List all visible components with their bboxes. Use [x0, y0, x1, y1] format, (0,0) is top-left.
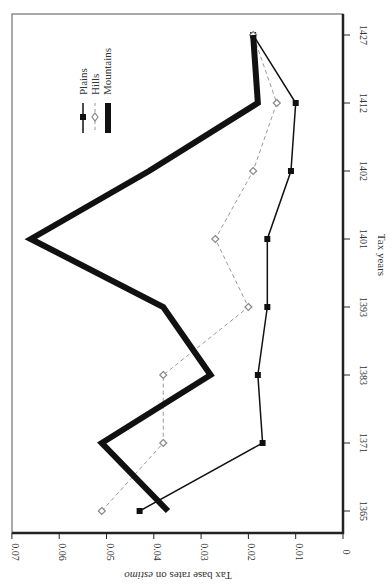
hills-diamond-marker-icon: [245, 304, 252, 311]
legend-label-plains: Plains: [77, 68, 89, 95]
plains-square-marker-icon: [255, 372, 261, 378]
legend-mountains-bar-icon: [105, 103, 111, 133]
hills-diamond-marker-icon: [273, 100, 280, 107]
plains-square-marker-icon: [288, 168, 294, 174]
category-axis-ticks: 13651371138313931401140214121427: [343, 25, 369, 521]
category-tick-label: 1371: [358, 433, 369, 453]
plains-square-marker-icon: [293, 100, 299, 106]
category-tick-label: 1401: [358, 229, 369, 249]
value-axis-title: Tax base rates on estimo: [124, 570, 232, 582]
category-tick-label: 1383: [358, 365, 369, 385]
value-axis-title-prefix: Tax base rates on: [153, 570, 232, 582]
chart-canvas: 00.010.020.030.040.050.060.07 1365137113…: [0, 0, 392, 588]
category-tick-label: 1402: [358, 161, 369, 181]
plains-square-marker-icon: [264, 304, 270, 310]
hills-diamond-marker-icon: [160, 440, 167, 447]
plot-frame: [12, 14, 343, 533]
value-tick-label: 0.07: [10, 543, 21, 561]
category-tick-label: 1427: [358, 25, 369, 45]
value-tick-label: 0: [341, 550, 352, 555]
value-tick-label: 0.04: [152, 543, 163, 561]
legend: Plains Hills Mountains: [77, 48, 113, 133]
category-tick-label: 1393: [358, 297, 369, 317]
category-tick-label: 1412: [358, 93, 369, 113]
value-tick-label: 0.06: [57, 543, 68, 561]
legend-plains-square-icon: [80, 114, 86, 120]
legend-label-hills: Hills: [89, 74, 101, 95]
line-chart: 00.010.020.030.040.050.060.07 1365137113…: [0, 0, 392, 588]
plains-square-marker-icon: [260, 440, 266, 446]
hills-diamond-marker-icon: [212, 236, 219, 243]
value-tick-label: 0.01: [294, 543, 305, 561]
category-axis-title: Tax years: [376, 234, 388, 276]
value-tick-label: 0.05: [105, 543, 116, 561]
plains-square-marker-icon: [264, 236, 270, 242]
value-tick-label: 0.03: [199, 543, 210, 561]
legend-hills-diamond-icon: [92, 113, 98, 121]
plains-square-marker-icon: [137, 508, 143, 514]
legend-label-mountains: Mountains: [101, 48, 113, 95]
value-axis-title-italic: estimo: [124, 570, 153, 582]
category-tick-label: 1365: [358, 501, 369, 521]
series-layer: [31, 32, 299, 515]
mountains-line: [31, 35, 258, 511]
value-axis-ticks: 00.010.020.030.040.050.060.07: [10, 533, 352, 561]
value-tick-label: 0.02: [246, 543, 257, 561]
hills-diamond-marker-icon: [250, 168, 257, 175]
series-mountains: [31, 35, 258, 511]
